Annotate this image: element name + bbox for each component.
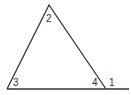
angle-label-4: 4 bbox=[92, 78, 98, 88]
angle-label-3: 3 bbox=[13, 78, 19, 88]
angle-label-1: 1 bbox=[109, 78, 115, 88]
angle-label-2: 2 bbox=[46, 14, 52, 24]
